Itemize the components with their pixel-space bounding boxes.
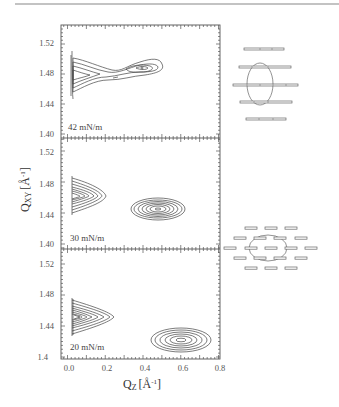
x-tick-label: 0.0 [64,363,75,373]
lattice-schematic-untilted [233,48,298,120]
y-tick-label: 1.52 [39,259,54,269]
panel-label-30: 30 mN/m [70,233,104,243]
y-tick-labels-panel-3: 1.52 1.48 1.44 1.4 [37,259,54,362]
y-tick-label: 1.40 [39,239,54,249]
y-tick-label: 1.48 [39,179,54,189]
figure: 1.52 1.48 1.44 1.40 1.52 1.48 1.44 1.40 … [0,0,339,407]
contours-panel-42 [71,51,163,99]
y-tick-label: 1.48 [39,289,54,299]
axis-ticks [61,25,220,359]
x-tick-label: 0.2 [102,363,113,373]
x-tick-labels: 0.0 0.2 0.4 0.6 0.8 [64,363,226,373]
y-axis-title: QXY[Å-1] [18,167,33,212]
panel-label-42: 42 mN/m [68,122,102,132]
panel-label-20: 20 mN/m [70,342,104,352]
y-tick-labels-panel-1: 1.52 1.48 1.44 1.40 [39,38,55,139]
y-tick-label: 1.40 [39,129,54,139]
y-tick-label: 1.48 [39,68,54,78]
x-tick-label: 0.4 [140,363,151,373]
y-tick-label: 1.44 [39,210,55,220]
contours-panel-30 [72,176,185,220]
y-tick-label: 1.52 [39,147,54,157]
y-tick-label: 1.52 [39,38,54,48]
x-axis-title: QZ[Å-1] [123,377,161,392]
x-tick-label: 0.6 [178,363,189,373]
y-tick-label: 1.44 [39,99,55,109]
y-tick-label: 1.4 [37,352,48,362]
lattice-schematic-tilted [224,227,317,269]
y-tick-label: 1.44 [39,321,55,331]
y-tick-labels-panel-2: 1.52 1.48 1.44 1.40 [39,147,55,249]
plot-frame [61,25,220,359]
x-tick-label: 0.8 [215,363,226,373]
